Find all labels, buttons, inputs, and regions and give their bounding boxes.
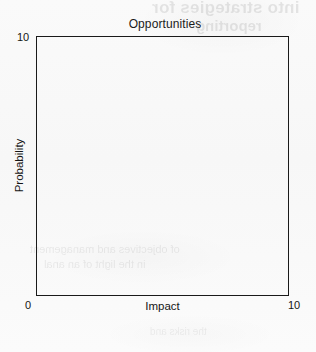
opportunities-matrix-chart: Opportunities 10 0 10 Impact Probability [0,0,316,352]
x-axis-min-tick-label: 0 [25,299,31,311]
y-axis-title: Probability [13,116,26,216]
chart-title: Opportunities [0,17,316,31]
x-axis-max-tick-label: 10 [288,299,300,311]
x-axis-title: Impact [36,300,289,313]
y-axis-max-tick-label: 10 [17,31,29,43]
plot-area [36,36,289,296]
chart-title-text: Opportunities [129,17,202,31]
